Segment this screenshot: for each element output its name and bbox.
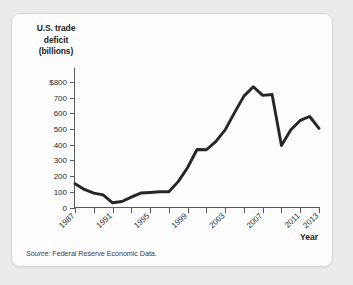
x-axis-ticks [76,208,320,213]
x-tick-label: 1999 [170,211,190,230]
x-tick-label: 2013 [301,211,321,230]
y-tick-label: 300 [54,156,68,165]
y-tick-label: 400 [54,141,68,150]
x-axis-title: Year [300,232,318,242]
x-axis-tick-labels: 19871991199519992003200720112013 [57,211,321,230]
y-tick-label: $800 [49,78,67,87]
y-tick-label: 600 [54,109,68,118]
source-note: Source: Federal Reserve Economic Data. [26,249,157,258]
trade-deficit-series-line [75,87,319,203]
x-tick-label: 1987 [57,211,77,230]
y-tick-label: 700 [54,94,68,103]
figure-card: U.S. trade deficit (billions) $800700600… [11,13,333,267]
x-tick-label: 2007 [245,211,265,230]
y-tick-label: 500 [54,125,68,134]
y-tick-label: 200 [54,172,68,181]
x-tick-label: 2003 [207,211,227,230]
source-label: Source: [26,249,50,258]
x-tick-label: 2011 [283,211,302,230]
source-text: Federal Reserve Economic Data. [50,249,156,258]
y-tick-label: 0 [63,204,68,213]
y-tick-label: 100 [54,188,68,197]
trade-deficit-line-chart: $8007006005004003002001000 1987199119951… [12,14,334,268]
chart-container: U.S. trade deficit (billions) $800700600… [12,14,334,268]
y-axis-tick-labels: $8007006005004003002001000 [49,78,67,213]
x-tick-label: 1991 [95,211,115,230]
x-tick-label: 1995 [132,211,152,230]
